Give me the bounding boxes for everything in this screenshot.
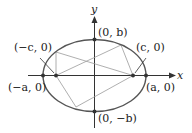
left-vertex-label: (−a, 0) — [8, 82, 46, 93]
right-focus-label: (c, 0) — [136, 42, 165, 53]
y-axis-arrow-icon — [92, 16, 98, 23]
x-axis-label: x — [177, 70, 183, 81]
right-vertex-label: (a, 0) — [146, 82, 175, 93]
bottom-vertex-label: (0, −b) — [98, 113, 137, 124]
y-axis-label: y — [91, 4, 97, 15]
top-vertex-label: (0, b) — [98, 27, 128, 38]
ellipse-diagram — [0, 0, 192, 133]
x-axis-arrow-icon — [169, 73, 176, 79]
left-focus-label: (−c, 0) — [14, 42, 52, 53]
